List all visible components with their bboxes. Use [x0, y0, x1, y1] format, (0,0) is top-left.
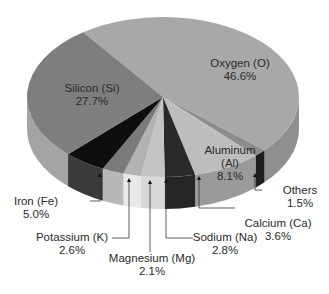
- label-silicon: Silicon (Si) 27.7%: [57, 82, 127, 108]
- label-potassium: Potassium (K) 2.6%: [32, 231, 112, 257]
- slice-sodium-na-side: [141, 176, 165, 209]
- label-iron: Iron (Fe) 5.0%: [6, 195, 66, 221]
- label-sodium: Sodium (Na) 2.8%: [190, 231, 260, 257]
- slice-magnesium-mg-side: [123, 174, 140, 208]
- label-oxygen: Oxygen (O) 46.6%: [195, 57, 285, 83]
- slice-calcium-ca-side: [165, 175, 195, 209]
- label-others: Others 1.5%: [280, 184, 320, 210]
- slice-potassium-k-side: [103, 169, 124, 206]
- label-aluminum: Aluminum (Al) 8.1%: [198, 144, 262, 183]
- label-magnesium: Magnesium (Mg) 2.1%: [107, 252, 197, 278]
